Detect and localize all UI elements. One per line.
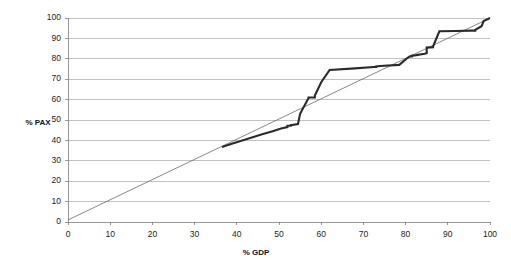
x-tick-label-40: 40: [232, 229, 242, 239]
y-tick-label-90: 90: [52, 33, 62, 43]
x-tick-label-10: 10: [105, 229, 115, 239]
x-tick-label-60: 60: [316, 229, 326, 239]
x-tick-label-20: 20: [148, 229, 158, 239]
x-tick-label-70: 70: [359, 229, 369, 239]
y-tick-label-50: 50: [52, 114, 62, 124]
y-tick-label-60: 60: [52, 94, 62, 104]
x-tick-label-90: 90: [443, 229, 453, 239]
y-tick-label-20: 20: [52, 175, 62, 185]
y-tick-label-10: 10: [52, 196, 62, 206]
y-tick-label-100: 100: [47, 12, 61, 22]
lorenz-chart-figure: 0102030405060708090100 01020304050607080…: [0, 0, 511, 266]
y-tick-label-70: 70: [52, 73, 62, 83]
x-axis-title: % GDP: [243, 248, 270, 257]
chart-background: [0, 0, 511, 266]
x-tick-label-80: 80: [401, 229, 411, 239]
y-tick-label-80: 80: [52, 53, 62, 63]
y-axis-title: % PAX: [25, 118, 51, 127]
chart-canvas: 0102030405060708090100 01020304050607080…: [0, 0, 511, 266]
y-tick-label-0: 0: [56, 216, 61, 226]
x-tick-label-50: 50: [274, 229, 284, 239]
y-tick-label-30: 30: [52, 155, 62, 165]
x-tick-label-100: 100: [483, 229, 497, 239]
x-tick-label-0: 0: [66, 229, 71, 239]
y-tick-label-40: 40: [52, 135, 62, 145]
x-tick-label-30: 30: [190, 229, 200, 239]
